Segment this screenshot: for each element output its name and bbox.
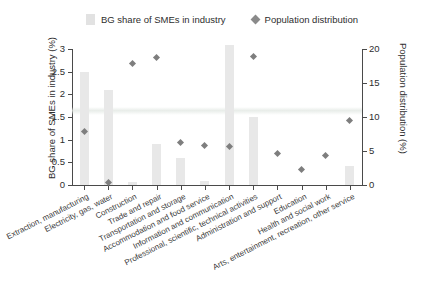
left-tick-label: 0 — [60, 180, 65, 190]
chart-legend: BG share of SMEs in industry Population … — [0, 14, 444, 25]
left-tick-label: 1 — [60, 135, 65, 145]
legend-item-bg-share: BG share of SMEs in industry — [86, 14, 226, 25]
left-tick-mark — [68, 162, 72, 163]
left-tick-mark — [68, 185, 72, 186]
right-tick-label: 5 — [369, 146, 374, 156]
left-tick-mark — [68, 94, 72, 95]
background-artifact-band — [72, 107, 362, 115]
bar — [104, 90, 113, 185]
data-point-diamond — [153, 54, 160, 61]
legend-item-population: Population distribution — [252, 14, 358, 25]
left-tick-label: 3 — [60, 44, 65, 54]
right-tick-mark — [363, 117, 367, 118]
left-tick-label: 1.5 — [52, 112, 65, 122]
legend-label-population: Population distribution — [265, 14, 358, 25]
data-point-diamond — [201, 142, 208, 149]
left-tick-label: 2 — [60, 89, 65, 99]
diamond-icon — [250, 15, 260, 25]
bar — [225, 45, 234, 185]
left-tick-label: 2.5 — [52, 67, 65, 77]
data-point-diamond — [129, 60, 136, 67]
data-point-diamond — [177, 139, 184, 146]
right-tick-label: 15 — [369, 78, 380, 88]
right-tick-mark — [363, 49, 367, 50]
left-axis-line — [72, 49, 73, 185]
left-tick-mark — [68, 72, 72, 73]
left-tick-mark — [68, 140, 72, 141]
data-point-diamond — [346, 117, 353, 124]
left-tick-label: 0.5 — [52, 157, 65, 167]
right-tick-mark — [363, 83, 367, 84]
left-tick-mark — [68, 49, 72, 50]
category-tick-mark — [84, 186, 85, 190]
data-point-diamond — [250, 53, 257, 60]
left-tick-mark — [68, 117, 72, 118]
right-tick-label: 10 — [369, 112, 380, 122]
legend-label-bg-share: BG share of SMEs in industry — [101, 14, 226, 25]
right-tick-label: 20 — [369, 44, 380, 54]
bar-swatch-icon — [86, 14, 95, 25]
